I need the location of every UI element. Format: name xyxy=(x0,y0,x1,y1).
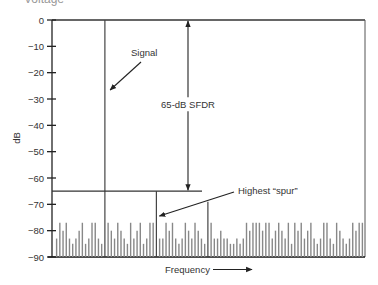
sfdr-label: 65-dB SFDR xyxy=(161,99,215,110)
annotations: 65-dB SFDRSignalHighest “spur”Frequency xyxy=(52,21,298,275)
y-tick-label: −50 xyxy=(28,146,44,157)
y-axis: 0−10−20−30−40−50−60−70−80−90dB xyxy=(11,15,56,263)
signal-arrow xyxy=(110,62,141,90)
highest-spur-label: Highest “spur” xyxy=(238,185,298,196)
y-tick-label: 0 xyxy=(39,15,44,26)
y-tick-label: −10 xyxy=(28,41,44,52)
spectrum-bars xyxy=(57,20,363,257)
y-tick-label: −90 xyxy=(28,252,44,263)
y-tick-label: −20 xyxy=(28,67,44,78)
plot-frame xyxy=(48,20,365,257)
y-axis-label: dB xyxy=(11,132,22,144)
y-tick-label: −60 xyxy=(28,173,44,184)
y-tick-label: −80 xyxy=(28,225,44,236)
highest-spur-arrow xyxy=(159,192,234,216)
signal-label: Signal xyxy=(131,47,157,58)
sfdr-chart: 0−10−20−30−40−50−60−70−80−90dB 65-dB SFD… xyxy=(0,0,378,285)
y-tick-label: −40 xyxy=(28,120,44,131)
y-tick-label: −70 xyxy=(28,199,44,210)
x-axis-label: Frequency xyxy=(165,264,210,275)
y-tick-label: −30 xyxy=(28,94,44,105)
